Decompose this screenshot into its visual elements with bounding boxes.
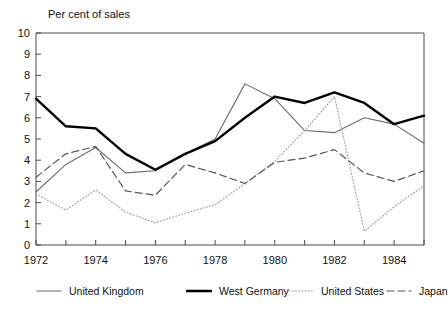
series-lines — [36, 84, 424, 231]
y-tick-label: 10 — [4, 27, 30, 39]
axis-frame — [36, 33, 424, 245]
chart-title: Per cent of sales — [48, 8, 130, 20]
legend-swatch-icon — [386, 285, 412, 297]
chart-legend: United KingdomWest GermanyUnited StatesJ… — [36, 284, 436, 306]
x-tick-label: 1980 — [263, 254, 287, 266]
y-tick-label: 9 — [4, 48, 30, 60]
y-tick-label: 0 — [4, 239, 30, 251]
y-tick-label: 4 — [4, 154, 30, 166]
y-tick-label: 3 — [4, 175, 30, 187]
legend-label: West Germany — [219, 285, 289, 297]
x-tick-label: 1984 — [382, 254, 406, 266]
series-line-west-germany — [36, 92, 424, 169]
x-tick-label: 1982 — [322, 254, 346, 266]
series-line-japan — [36, 146, 424, 195]
x-tick-label: 1974 — [83, 254, 107, 266]
y-tick-label: 5 — [4, 133, 30, 145]
legend-swatch-icon — [288, 285, 314, 297]
x-tick-label: 1978 — [203, 254, 227, 266]
y-axis-ticks — [36, 33, 41, 245]
legend-item-united-states: United States — [288, 284, 384, 298]
legend-item-united-kingdom: United Kingdom — [36, 284, 144, 298]
y-tick-label: 2 — [4, 197, 30, 209]
legend-swatch-icon — [186, 285, 212, 297]
y-tick-label: 6 — [4, 112, 30, 124]
x-tick-label: 1972 — [24, 254, 48, 266]
legend-label: United Kingdom — [69, 285, 144, 297]
legend-label: United States — [321, 285, 384, 297]
legend-label: Japan — [419, 285, 448, 297]
y-tick-label: 7 — [4, 91, 30, 103]
legend-item-japan: Japan — [386, 284, 448, 298]
legend-swatch-icon — [36, 285, 62, 297]
x-tick-label: 1976 — [143, 254, 167, 266]
y-tick-label: 1 — [4, 218, 30, 230]
series-line-united-kingdom — [36, 84, 424, 192]
y-tick-label: 8 — [4, 69, 30, 81]
x-axis-ticks — [36, 240, 424, 245]
series-line-united-states — [36, 97, 424, 232]
legend-item-west-germany: West Germany — [186, 284, 289, 298]
